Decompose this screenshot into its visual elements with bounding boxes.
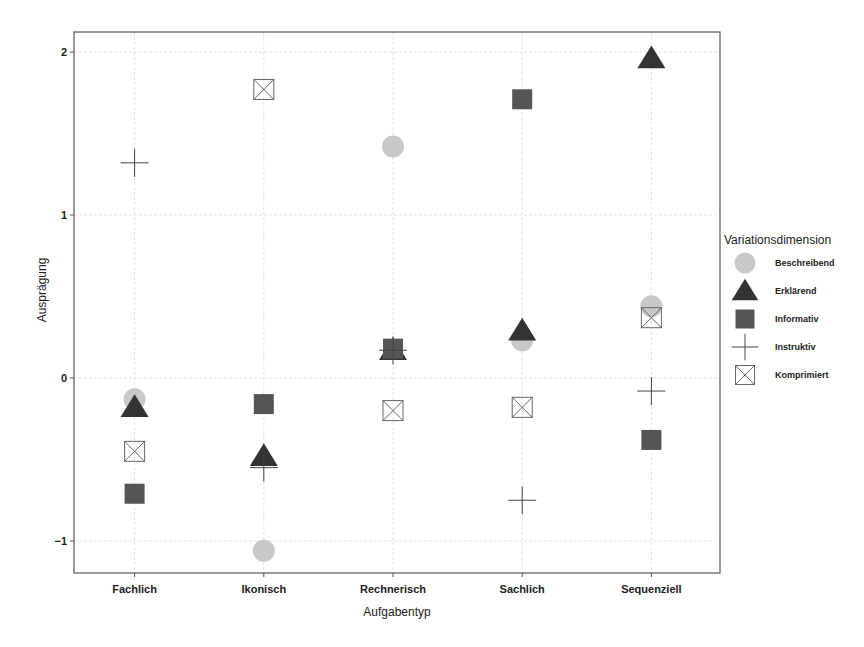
x-tick-label: Fachlich bbox=[112, 583, 157, 595]
cross-marker bbox=[508, 486, 536, 514]
circle-marker bbox=[735, 253, 756, 274]
cross-marker bbox=[250, 454, 278, 482]
legend-label: Instruktiv bbox=[775, 342, 816, 352]
cross-marker bbox=[121, 149, 149, 177]
y-axis-title: Ausprägung bbox=[35, 258, 49, 323]
y-tick-label: 2 bbox=[61, 46, 67, 58]
y-tick-label: 0 bbox=[61, 372, 67, 384]
legend-label: Informativ bbox=[775, 314, 819, 324]
square-marker bbox=[736, 310, 755, 329]
cross-marker bbox=[732, 334, 759, 361]
x-axis: FachlichIkonischRechnerischSachlichSeque… bbox=[112, 573, 681, 595]
y-tick-label: −1 bbox=[54, 535, 67, 547]
x-tick-label: Sachlich bbox=[500, 583, 546, 595]
scatter-chart: −1012 FachlichIkonischRechnerischSachlic… bbox=[0, 0, 864, 647]
triangle-marker bbox=[732, 279, 759, 301]
circle-marker bbox=[640, 295, 662, 317]
y-axis: −1012 bbox=[54, 46, 74, 547]
cross-marker bbox=[637, 377, 665, 405]
x-tick-label: Rechnerisch bbox=[360, 583, 426, 595]
square-marker bbox=[641, 430, 661, 450]
legend-label: Erklärend bbox=[775, 286, 817, 296]
circle-marker bbox=[382, 136, 404, 158]
x-axis-title: Aufgabentyp bbox=[363, 605, 431, 619]
legend-label: Beschreibend bbox=[775, 258, 835, 268]
legend-title: Variationsdimension bbox=[724, 233, 831, 247]
square-marker bbox=[125, 484, 145, 504]
square-marker bbox=[512, 89, 532, 109]
x-tick-label: Ikonisch bbox=[241, 583, 286, 595]
x-tick-label: Sequenziell bbox=[621, 583, 682, 595]
legend: Variationsdimension BeschreibendErklären… bbox=[724, 233, 835, 385]
boxed-x-marker bbox=[736, 366, 755, 385]
plot-panel bbox=[74, 32, 720, 573]
circle-marker bbox=[253, 540, 275, 562]
grid-lines bbox=[74, 32, 720, 573]
square-marker bbox=[254, 394, 274, 414]
triangle-marker bbox=[637, 46, 665, 69]
legend-label: Komprimiert bbox=[775, 370, 829, 380]
y-tick-label: 1 bbox=[61, 209, 67, 221]
triangle-marker bbox=[508, 318, 536, 341]
